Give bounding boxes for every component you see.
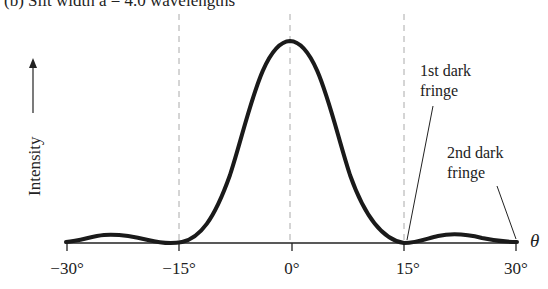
dark-fringe-guides [179, 14, 404, 243]
annotation-1st-dark-line1: 1st dark [420, 62, 471, 79]
annotation-2nd-dark-line1: 2nd dark [447, 144, 503, 161]
y-axis-label-group: Intensity [25, 58, 44, 196]
annotation-2nd-dark-leader [497, 186, 516, 239]
x-ticks [67, 243, 516, 251]
tick-label-minus-15: −15° [162, 259, 195, 278]
annotation-1st-dark-line2: fringe [420, 82, 458, 100]
y-axis-label: Intensity [25, 136, 44, 196]
up-arrow-icon [29, 58, 37, 68]
tick-label-0: 0° [284, 259, 299, 278]
annotation-1st-dark-leader [407, 106, 433, 240]
annotation-2nd-dark-line2: fringe [447, 164, 485, 182]
tick-label-30: 30° [504, 259, 528, 278]
diffraction-plot: −30° −15° 0° 15° 30° θ Intensity 1st dar… [0, 0, 548, 289]
tick-label-minus-30: −30° [50, 259, 83, 278]
tick-label-15: 15° [396, 259, 420, 278]
x-axis-label: θ [530, 230, 539, 251]
